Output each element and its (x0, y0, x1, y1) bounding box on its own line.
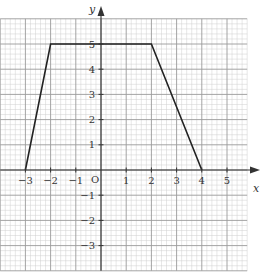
origin-label: O (91, 174, 99, 185)
x-tick-label: 5 (224, 175, 230, 186)
x-axis-arrow-icon (250, 167, 260, 174)
x-tick-label: −2 (43, 175, 58, 186)
x-tick-label: −1 (68, 175, 83, 186)
y-tick-label: −1 (80, 190, 95, 201)
x-tick-label: 3 (173, 175, 179, 186)
x-tick-label: 4 (199, 175, 205, 186)
series-line-trapezoid (25, 44, 201, 170)
major-grid (0, 19, 247, 271)
y-tick-label: 1 (89, 139, 95, 150)
y-tick-label: 3 (89, 89, 95, 100)
y-tick-label: 2 (89, 114, 95, 125)
axes (0, 6, 260, 271)
x-axis-label: x (253, 182, 260, 195)
y-tick-label: 4 (89, 64, 95, 75)
x-tick-label: 1 (123, 175, 129, 186)
y-tick-label: 5 (89, 39, 95, 50)
y-axis-label: y (88, 3, 96, 16)
y-tick-label: −2 (80, 215, 95, 226)
x-tick-label: −3 (18, 175, 33, 186)
y-tick-label: −3 (80, 240, 95, 251)
y-axis-arrow-icon (98, 6, 105, 16)
graph-plot: −3−2−112345−3−2−112345 x y O (0, 0, 262, 276)
x-tick-label: 2 (148, 175, 154, 186)
data-series (25, 44, 201, 170)
